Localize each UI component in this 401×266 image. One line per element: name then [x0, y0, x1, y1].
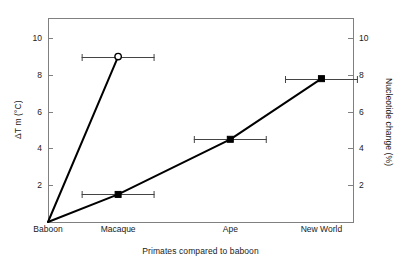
y-axis-tick-label-right: 6 [359, 107, 364, 117]
plot-frame [49, 19, 354, 223]
data-point-marker [115, 191, 121, 197]
y-axis-tick-label-left: 4 [18, 143, 42, 153]
y-axis-tick-label-left: 6 [18, 107, 42, 117]
y-axis-tick-label-right: 10 [359, 33, 368, 43]
y-axis-tick-label-right: 8 [359, 70, 364, 80]
y-axis-tick-label-right: 4 [359, 143, 364, 153]
y-axis-label-right: Nucleotide change (%) [381, 52, 397, 192]
series-line-1 [48, 79, 321, 222]
x-axis-category-label-baboon: Baboon [33, 224, 62, 234]
x-axis-category-label-macaque: Macaque [101, 224, 136, 234]
y-axis-tick-label-left: 8 [18, 70, 42, 80]
y-axis-tick-label-right: 2 [359, 180, 364, 190]
chart-figure: ΔT m (°C) Nucleotide change (%) Primates… [0, 0, 401, 266]
y-axis-tick-label-left: 10 [18, 33, 42, 43]
x-axis-category-label-new-world: New World [301, 224, 342, 234]
series-line-0 [48, 57, 118, 222]
x-axis-label: Primates compared to baboon [0, 246, 401, 256]
y-axis-tick-label-left: 2 [18, 180, 42, 190]
data-point-marker [318, 76, 324, 82]
x-axis-category-label-ape: Ape [223, 224, 238, 234]
data-point-marker [115, 53, 121, 59]
data-point-marker [227, 136, 233, 142]
